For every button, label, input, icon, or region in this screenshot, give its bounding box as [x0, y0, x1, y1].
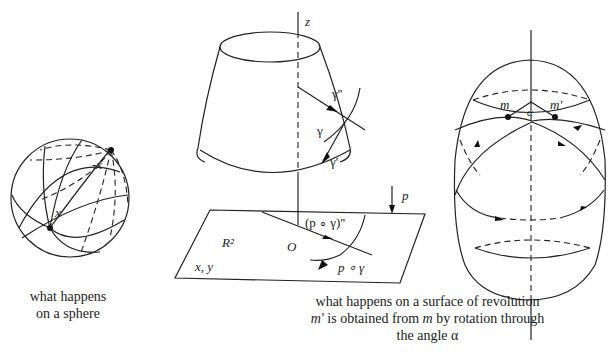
sphere-caption-line2: on a sphere — [8, 305, 128, 322]
point-x — [47, 225, 53, 231]
surface-projection-figure: z γ'' γ γ' p R² x, y O (p ∘ γ)'' p ∘ γ — [175, 12, 425, 283]
label-gamma-dd: γ'' — [331, 86, 342, 101]
main-caption-line2: m′ is obtained from m by rotation throug… — [255, 310, 600, 327]
sphere-caption-line1: what happens — [8, 288, 128, 305]
main-caption: what happens on a surface of revolution … — [255, 293, 600, 344]
label-alpha: α — [527, 106, 533, 118]
sphere-caption: what happens on a sphere — [8, 288, 128, 322]
caption-text: is obtained from — [324, 311, 423, 326]
m-symbol: m — [423, 311, 433, 326]
point-m-prime — [552, 114, 558, 120]
label-proj-dd: (p ∘ γ)'' — [305, 215, 345, 230]
label-origin: O — [287, 239, 297, 254]
label-gamma-d: γ' — [329, 154, 338, 169]
main-caption-line1: what happens on a surface of revolution — [255, 293, 600, 310]
label-m: m — [500, 97, 509, 112]
label-neg-x: -x — [92, 157, 102, 172]
axis-z-label: z — [304, 14, 310, 29]
sphere-figure: x -x — [11, 139, 129, 257]
main-caption-line3: the angle α — [255, 327, 600, 344]
point-m — [505, 114, 511, 120]
egg-outline — [454, 60, 605, 300]
label-gamma: γ — [316, 123, 323, 138]
label-r2: R² — [221, 235, 235, 250]
antipode-point — [108, 147, 114, 153]
caption-text: by rotation through — [433, 311, 545, 326]
label-m-prime: m' — [550, 97, 562, 112]
label-xy: x, y — [194, 259, 213, 274]
label-p: p — [401, 188, 409, 203]
m-prime-symbol: m′ — [311, 311, 324, 326]
top-rim — [220, 32, 320, 62]
label-x: x — [54, 205, 61, 220]
label-proj: p ∘ γ — [337, 260, 365, 275]
